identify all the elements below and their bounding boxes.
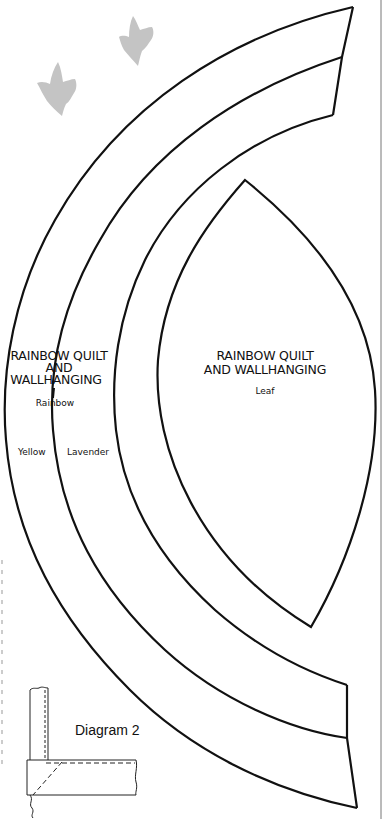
rainbow-top-end (333, 7, 353, 115)
band-label-lavender: Lavender (67, 447, 109, 457)
bird-icon (37, 62, 76, 116)
rainbow-bottom-end (347, 685, 357, 808)
rainbow-title-line3: WALLHANGING (6, 374, 106, 386)
grain-line (53, 388, 54, 398)
diagram-2-label: Diagram 2 (75, 722, 140, 738)
diagram-2-drawing (27, 687, 137, 818)
leaf-outline (158, 180, 376, 627)
leaf-title-line2: AND WALLHANGING (190, 364, 340, 376)
quilt-pattern-sheet (0, 0, 385, 819)
leaf-title-line1: RAINBOW QUILT (190, 350, 340, 362)
rainbow-piece-name: Rainbow (32, 398, 78, 408)
band-label-yellow: Yellow (18, 447, 46, 457)
bird-icon (119, 16, 153, 66)
rainbow-inner-edge (114, 115, 347, 685)
leaf-piece-name: Leaf (190, 386, 340, 396)
